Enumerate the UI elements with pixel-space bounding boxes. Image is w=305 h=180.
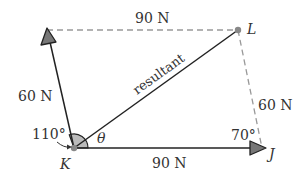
force-diagram: 90 N 60 N 60 N 90 N 110° 70° θ K L J res… (0, 0, 305, 180)
right-arrowhead-icon (250, 141, 266, 155)
top-force-label: 90 N (135, 10, 170, 26)
point-k-label: K (59, 156, 72, 172)
theta-label: θ (97, 130, 106, 146)
point-j-label: J (266, 146, 276, 162)
bottom-force-label: 90 N (152, 155, 187, 171)
resultant-label: resultant (130, 50, 188, 97)
point-l-dot (235, 27, 241, 33)
point-k-dot (71, 145, 77, 151)
right-force-label: 60 N (258, 97, 293, 113)
left-force-label: 60 N (18, 88, 53, 104)
angle-k-label: 110° (32, 126, 66, 142)
point-l-label: L (246, 21, 256, 37)
angle-j-label: 70° (231, 127, 256, 143)
left-arrowhead-icon (41, 28, 56, 45)
